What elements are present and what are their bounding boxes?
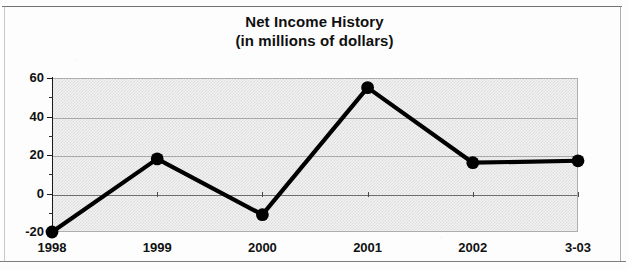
x-tick bbox=[262, 192, 263, 197]
x-axis-tick-label: 2000 bbox=[227, 241, 297, 255]
y-tick-major bbox=[47, 155, 53, 156]
x-axis-tick-label: 3-03 bbox=[543, 241, 613, 255]
y-tick-minor bbox=[49, 174, 53, 175]
y-axis-tick-label: 40 bbox=[2, 110, 44, 123]
x-tick bbox=[368, 192, 369, 197]
y-axis-tick-label: -20 bbox=[2, 225, 44, 238]
chart-title: Net Income History bbox=[0, 12, 629, 31]
y-tick-major bbox=[47, 194, 53, 195]
zero-gridline bbox=[53, 195, 577, 196]
x-tick bbox=[157, 192, 158, 197]
y-tick-major bbox=[47, 78, 53, 79]
plot-area bbox=[52, 78, 578, 232]
y-axis-tick-label: 60 bbox=[2, 71, 44, 84]
x-axis-tick-label: 1998 bbox=[17, 241, 87, 255]
x-axis-tick-label: 2001 bbox=[333, 241, 403, 255]
page-border-bottom bbox=[0, 261, 626, 262]
x-tick bbox=[578, 192, 579, 197]
chart-title-block: Net Income History (in millions of dolla… bbox=[0, 12, 629, 50]
y-tick-major bbox=[47, 117, 53, 118]
y-axis-tick-label: 20 bbox=[2, 148, 44, 161]
x-tick bbox=[473, 192, 474, 197]
gridline bbox=[53, 156, 577, 157]
x-axis-tick-label: 2002 bbox=[438, 241, 508, 255]
chart-subtitle: (in millions of dollars) bbox=[0, 31, 629, 50]
chart-page: Net Income History (in millions of dolla… bbox=[0, 0, 629, 270]
y-tick-minor bbox=[49, 97, 53, 98]
gridline bbox=[53, 118, 577, 119]
x-axis-tick-label: 1999 bbox=[122, 241, 192, 255]
y-axis-tick-label: 0 bbox=[2, 187, 44, 200]
page-border-top bbox=[2, 6, 622, 7]
y-tick-minor bbox=[49, 213, 53, 214]
y-tick-major bbox=[47, 232, 53, 233]
y-tick-minor bbox=[49, 136, 53, 137]
